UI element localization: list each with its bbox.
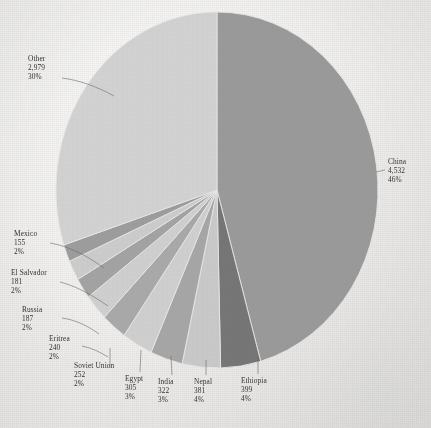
pie-label-el-salvador-percent: 2%	[11, 286, 47, 295]
pie-label-nepal-percent: 4%	[194, 395, 212, 404]
pie-label-soviet-union-name: Soviet Union	[74, 361, 114, 370]
leader-line-russia	[62, 318, 99, 334]
pie-label-india-name: India	[158, 377, 174, 386]
pie-label-el-salvador-value: 181	[11, 277, 47, 286]
pie-label-other-percent: 30%	[28, 72, 45, 81]
pie-label-nepal-value: 381	[194, 386, 212, 395]
pie-label-egypt: Egypt 305 3%	[125, 374, 143, 401]
leader-line-eritrea	[82, 346, 108, 357]
pie-label-ethiopia-value: 399	[241, 385, 267, 394]
pie-label-ethiopia-name: Ethiopia	[241, 376, 267, 385]
pie-label-other-name: Other	[28, 54, 45, 63]
pie-label-nepal-name: Nepal	[194, 377, 212, 386]
pie-label-nepal: Nepal 381 4%	[194, 377, 212, 404]
pie-label-egypt-value: 305	[125, 383, 143, 392]
pie-label-eritrea-percent: 2%	[49, 352, 70, 361]
pie-label-egypt-percent: 3%	[125, 392, 143, 401]
pie-label-china: China 4,532 46%	[388, 157, 406, 184]
pie-label-other: Other 2,979 30%	[28, 54, 45, 81]
pie-label-other-value: 2,979	[28, 63, 45, 72]
pie-label-russia-value: 187	[22, 314, 42, 323]
pie-label-china-value: 4,532	[388, 166, 406, 175]
pie-chart-page: Other 2,979 30% China 4,532 46% Mexico 1…	[0, 0, 431, 428]
pie-label-china-name: China	[388, 157, 406, 166]
pie-label-china-percent: 46%	[388, 175, 406, 184]
pie-label-russia-name: Russia	[22, 305, 42, 314]
leader-line-egypt	[140, 350, 141, 372]
pie-label-eritrea: Eritrea 240 2%	[49, 334, 70, 361]
pie-label-mexico-percent: 2%	[14, 247, 37, 256]
pie-label-russia-percent: 2%	[22, 323, 42, 332]
pie-label-soviet-union-value: 252	[74, 370, 114, 379]
pie-label-mexico-name: Mexico	[14, 229, 37, 238]
pie-label-el-salvador: El Salvador 181 2%	[11, 268, 47, 295]
pie-label-soviet-union: Soviet Union 252 2%	[74, 361, 114, 388]
pie-label-mexico: Mexico 155 2%	[14, 229, 37, 256]
pie-label-egypt-name: Egypt	[125, 374, 143, 383]
pie-label-india-percent: 3%	[158, 395, 174, 404]
pie-label-india-value: 322	[158, 386, 174, 395]
pie-label-soviet-union-percent: 2%	[74, 379, 114, 388]
pie-label-mexico-value: 155	[14, 238, 37, 247]
pie-label-russia: Russia 187 2%	[22, 305, 42, 332]
pie-slices	[56, 12, 378, 368]
pie-chart-canvas	[0, 0, 431, 428]
pie-label-eritrea-name: Eritrea	[49, 334, 70, 343]
pie-label-ethiopia: Ethiopia 399 4%	[241, 376, 267, 403]
pie-label-eritrea-value: 240	[49, 343, 70, 352]
pie-label-el-salvador-name: El Salvador	[11, 268, 47, 277]
pie-label-india: India 322 3%	[158, 377, 174, 404]
pie-label-ethiopia-percent: 4%	[241, 394, 267, 403]
